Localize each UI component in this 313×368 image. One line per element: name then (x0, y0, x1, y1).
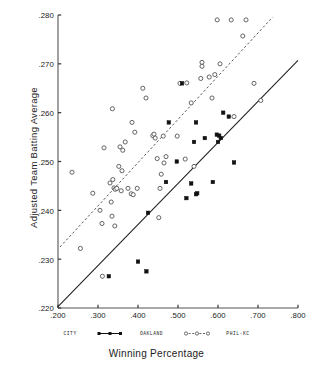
legend-label-phil-kc: PHIL-KC (226, 331, 249, 336)
y-tick-label: .250 (28, 158, 54, 167)
series-markers-phil-kc (70, 18, 263, 278)
x-tick-label: .500 (158, 311, 198, 320)
legend-label-oakland: OAKLAND (140, 331, 163, 336)
y-tick-label: .240 (28, 207, 54, 216)
x-tick-label: .300 (78, 311, 118, 320)
y-tick-label: .230 (28, 256, 54, 265)
y-tick-label: .260 (28, 109, 54, 118)
x-tick-label: .800 (278, 311, 313, 320)
series-markers-oakland (107, 82, 236, 278)
x-tick-label: .700 (238, 311, 278, 320)
x-tick-label: .400 (118, 311, 158, 320)
legend-key-oakland (97, 330, 123, 337)
y-tick-label: .280 (28, 11, 54, 20)
legend-caption: CITY (63, 331, 76, 336)
scatter-plot-figure: Adjusted Team Batting Average .280 .270 … (0, 0, 313, 368)
y-tick-label: .270 (28, 60, 54, 69)
chart-legend: CITY OAKLAND PHIL-KC (0, 330, 313, 337)
x-tick-label: .600 (198, 311, 238, 320)
x-axis-title: Winning Percentage (0, 348, 313, 359)
legend-key-phil-kc (184, 330, 210, 337)
x-tick-label: .200 (38, 311, 78, 320)
